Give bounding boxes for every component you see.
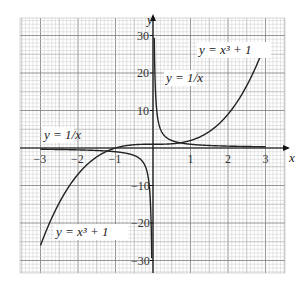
label-reciprocal-upper: y = 1/x	[164, 70, 203, 85]
y-axis-label: y	[145, 12, 153, 27]
x-axis-label: x	[288, 150, 295, 165]
svg-text:−10: −10	[131, 179, 150, 193]
svg-text:30: 30	[137, 29, 149, 43]
svg-text:20: 20	[137, 66, 149, 80]
svg-text:−30: −30	[131, 254, 150, 268]
label-cubic-lower: y = x³ + 1	[54, 224, 108, 239]
chart: xy−3−2−1123302010−10−20−30y = x³ + 1y = …	[0, 0, 301, 292]
svg-text:1: 1	[188, 152, 194, 166]
svg-text:−20: −20	[131, 216, 150, 230]
svg-text:10: 10	[137, 104, 149, 118]
svg-text:3: 3	[263, 152, 269, 166]
svg-text:−1: −1	[109, 152, 122, 166]
svg-text:2: 2	[225, 152, 231, 166]
svg-text:−2: −2	[71, 152, 84, 166]
label-reciprocal-left: y = 1/x	[42, 127, 81, 142]
label-cubic-upper: y = x³ + 1	[197, 42, 251, 57]
svg-text:−3: −3	[34, 152, 47, 166]
